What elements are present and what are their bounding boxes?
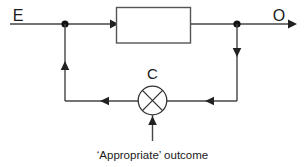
diagram-canvas: E O C ‘Appropriate’ outcome — [0, 0, 307, 167]
arrowhead-up-left-icon — [61, 61, 70, 70]
arrowhead-left-left-segment-icon — [100, 97, 109, 106]
process-block — [117, 8, 191, 44]
arrowhead-up-into-junction-icon — [148, 116, 157, 125]
junction-label: C — [147, 65, 158, 82]
block-diagram: E O C ‘Appropriate’ outcome — [0, 0, 307, 167]
input-label: E — [13, 7, 24, 24]
arrowhead-output-icon — [288, 20, 297, 29]
caption-label: ‘Appropriate’ outcome — [97, 149, 208, 161]
arrowhead-left-right-segment-icon — [205, 97, 214, 106]
arrowhead-down-right-icon — [233, 48, 242, 57]
output-label: O — [273, 7, 285, 24]
